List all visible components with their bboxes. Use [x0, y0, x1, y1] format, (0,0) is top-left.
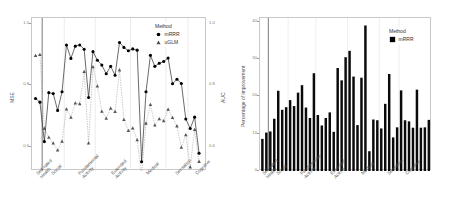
x-group-label: FundamentalActivity	[300, 173, 307, 180]
x-group-label: Cognitive	[405, 173, 408, 176]
filled-square-icon	[389, 36, 396, 43]
y-tick-label: 20	[248, 92, 257, 97]
x-group-label: Cognitive	[195, 173, 198, 176]
x-group-label: Medical	[361, 173, 364, 176]
x-group-label: FundamentalActivity	[78, 173, 85, 180]
legend-label-mrrr: mRRR	[399, 36, 414, 42]
y-tick-mark	[29, 146, 31, 147]
legend-title: Method	[155, 23, 180, 29]
left-y-axis-title: MSE	[9, 92, 15, 103]
x-group-label: Medical	[146, 173, 149, 176]
legend-label-mrrr: mRRR	[165, 31, 180, 37]
x-group-label: Social	[51, 173, 54, 176]
x-group-label: Self-ratedHealth	[36, 173, 43, 180]
x-group-label: Self-ratedHealth	[262, 173, 269, 180]
y-tick-label: 1.0	[20, 20, 29, 25]
y-tick-label-right: 0.8	[209, 81, 215, 86]
panel-improvement: 010203040 Percentage of improvement Self…	[229, 0, 459, 220]
legend-item-mrrr[interactable]: mRRR	[389, 36, 414, 43]
x-group-label: Sensation	[175, 173, 178, 176]
legend-item-mrrr[interactable]: mRRR	[155, 31, 180, 38]
y-tick-label: 0	[248, 167, 257, 172]
y-tick-mark	[29, 23, 31, 24]
legend-label-uglm: uGLM	[165, 39, 179, 45]
legend-item-uglm[interactable]: uGLM	[155, 39, 180, 46]
y-tick-label: 10	[248, 130, 257, 135]
y-tick-mark	[257, 170, 259, 171]
legend-title: Method	[389, 28, 414, 34]
y-tick-label: 0.6	[20, 143, 29, 148]
filled-circle-icon	[155, 31, 162, 38]
y-tick-label: 0.8	[20, 81, 29, 86]
x-group-label: Social	[276, 173, 279, 176]
right-y-axis-title: Percentage of improvement	[240, 65, 246, 126]
figure-container: 1.00.80.6 1.00.80.6 MSE AUC Self-ratedHe…	[0, 0, 459, 220]
x-group-label: Sensation	[387, 173, 390, 176]
left-y-axis-right-title: AUC	[220, 92, 226, 103]
filled-triangle-icon	[155, 39, 162, 46]
y-tick-label: 30	[248, 55, 257, 60]
panel-mse-auc: 1.00.80.6 1.00.80.6 MSE AUC Self-ratedHe…	[0, 0, 229, 220]
y-tick-mark	[257, 95, 259, 96]
y-tick-label-right: 0.6	[209, 143, 215, 148]
legend-right: Method mRRR	[387, 27, 416, 44]
y-tick-mark	[257, 21, 259, 22]
y-tick-mark	[257, 58, 259, 59]
y-tick-mark	[257, 133, 259, 134]
y-tick-label-right: 1.0	[209, 20, 215, 25]
y-tick-label: 40	[248, 18, 257, 23]
x-group-label: ExtendedActivity	[330, 173, 337, 180]
x-group-label: ExtendedActivity	[111, 173, 118, 180]
y-tick-mark	[29, 84, 31, 85]
legend-left: Method mRRR uGLM	[153, 22, 182, 47]
